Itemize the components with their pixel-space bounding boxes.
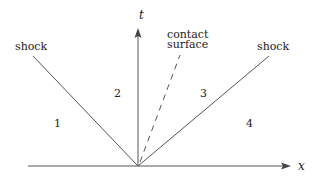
t-axis-label: t — [139, 8, 144, 22]
right-shock-line — [138, 56, 269, 166]
right-shock-label: shock — [257, 40, 290, 53]
region-1-label: 1 — [54, 117, 61, 130]
left-shock-label: shock — [15, 40, 48, 53]
region-3-label: 3 — [200, 87, 207, 100]
left-shock-line — [33, 56, 138, 166]
contact-surface-line — [140, 55, 180, 162]
x-axis-label: x — [298, 159, 305, 173]
region-4-label: 4 — [246, 117, 253, 130]
region-2-label: 2 — [114, 87, 121, 100]
contact-label-line2: surface — [167, 38, 208, 51]
riemann-problem-diagram: t x shock shock contact surface 1 2 3 4 — [0, 0, 319, 181]
